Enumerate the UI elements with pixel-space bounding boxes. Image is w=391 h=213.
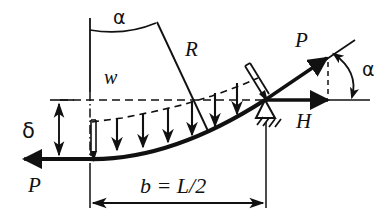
- delta-label: δ: [22, 119, 35, 143]
- alpha-right-label: α: [362, 58, 375, 80]
- span-dimension-label: b = L/2: [140, 173, 206, 198]
- inclined-reference-line: [318, 40, 355, 65]
- deflected-member-curve: [36, 100, 265, 159]
- radius-line: [157, 22, 208, 131]
- distributed-load-label: w: [104, 66, 118, 88]
- alpha-angle-arc-right: [334, 54, 354, 97]
- alpha-top-label: α: [113, 6, 126, 28]
- diagram-canvas: α R w: [0, 0, 391, 213]
- force-h: [265, 62, 370, 100]
- force-p-right-label: P: [294, 28, 308, 52]
- load-arrow: [90, 120, 97, 162]
- engineering-diagram: α R w: [0, 0, 391, 213]
- delta-dimension: [50, 100, 74, 155]
- force-p-left-label: P: [27, 173, 41, 197]
- radius-label: R: [184, 37, 198, 61]
- force-h-label: H: [295, 109, 313, 133]
